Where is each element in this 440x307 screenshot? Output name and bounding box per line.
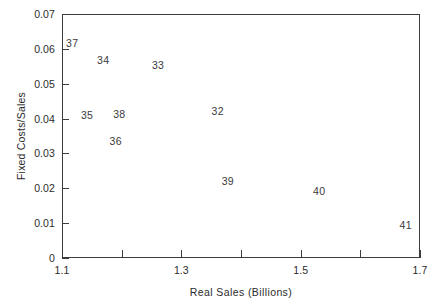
scatter-chart-figure: 00.010.020.030.040.050.060.07 3734333238… [0, 0, 440, 307]
data-point-label: 39 [222, 175, 234, 187]
y-tick-mark [62, 49, 69, 50]
y-tick-label: 0 [49, 252, 55, 264]
x-tick-mark [420, 250, 421, 258]
x-tick-label: 1.7 [413, 264, 428, 276]
data-point-label: 38 [113, 108, 125, 120]
y-tick-mark [62, 119, 69, 120]
x-tick-mark [122, 250, 123, 258]
y-tick-mark [62, 84, 69, 85]
y-tick-label: 0.06 [34, 43, 55, 55]
data-point-label: 36 [110, 135, 122, 147]
y-tick-mark [62, 188, 69, 189]
x-tick-mark [181, 250, 182, 258]
data-point-label: 32 [212, 105, 224, 117]
data-point-label: 40 [313, 185, 325, 197]
data-point-label: 33 [152, 59, 164, 71]
y-tick-label: 0.02 [34, 182, 55, 194]
x-tick-label: 1.1 [55, 264, 70, 276]
x-tick-label: 1.5 [293, 264, 308, 276]
x-tick-mark [62, 250, 63, 258]
x-axis-title: Real Sales (Billions) [62, 286, 420, 298]
y-tick-label: 0.05 [34, 78, 55, 90]
y-tick-label: 0.03 [34, 147, 55, 159]
x-tick-mark [241, 250, 242, 258]
y-tick-label: 0.04 [34, 113, 55, 125]
y-tick-mark [62, 153, 69, 154]
x-tick-mark [301, 250, 302, 258]
x-tick-mark [360, 250, 361, 258]
y-tick-mark [62, 14, 69, 15]
y-tick-mark [62, 258, 69, 259]
plot-area: 00.010.020.030.040.050.060.07 3734333238… [62, 14, 420, 258]
y-tick-label: 0.07 [34, 8, 55, 20]
data-point-label: 41 [400, 219, 412, 231]
y-tick-label: 0.01 [34, 217, 55, 229]
data-point-label: 37 [66, 37, 78, 49]
y-axis-title: Fixed Costs/Sales [14, 14, 28, 258]
y-tick-mark [62, 223, 69, 224]
data-point-label: 35 [81, 109, 93, 121]
data-point-label: 34 [97, 54, 109, 66]
x-tick-label: 1.3 [174, 264, 189, 276]
